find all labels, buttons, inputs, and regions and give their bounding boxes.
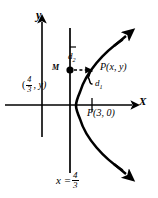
figure-canvas bbox=[0, 0, 158, 198]
directrix-lhs: x = bbox=[56, 174, 71, 186]
directrix-equation-label: x =43 bbox=[56, 172, 80, 191]
parabola-upper-arrow bbox=[114, 36, 126, 46]
directrix-fraction: 43 bbox=[72, 171, 79, 190]
point-m-coordinates-label: (43, y) bbox=[22, 77, 46, 94]
coords-rest: , y) bbox=[33, 79, 46, 90]
d2-subscript: 2 bbox=[73, 57, 76, 63]
fraction-numerator: 4 bbox=[26, 76, 32, 84]
directrix-denominator: 3 bbox=[72, 180, 79, 190]
d1-subscript: 1 bbox=[100, 84, 103, 90]
fraction-denominator: 3 bbox=[26, 85, 32, 94]
parabola-lower-arrow bbox=[114, 164, 126, 174]
point-m-label: M bbox=[52, 64, 59, 72]
coords-open-paren: ( bbox=[22, 79, 25, 90]
point-m-dot bbox=[66, 66, 73, 73]
point-f-label: F(3, 0) bbox=[87, 108, 115, 118]
d2-label: d2 bbox=[68, 52, 76, 63]
point-p-label: P(x, y) bbox=[100, 62, 127, 72]
four-thirds-fraction: 43 bbox=[26, 76, 32, 93]
y-axis-label: y bbox=[36, 9, 41, 21]
parabola-figure: y X M P(x, y) F(3, 0) (43, y) d2 d1 x =4… bbox=[0, 0, 158, 198]
x-axis-label: X bbox=[139, 96, 146, 107]
directrix-numerator: 4 bbox=[72, 171, 79, 180]
d1-label: d1 bbox=[95, 79, 103, 90]
